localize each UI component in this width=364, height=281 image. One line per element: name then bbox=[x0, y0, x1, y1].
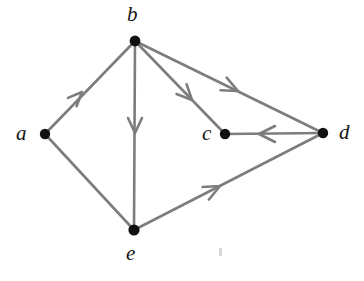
node-d[interactable] bbox=[318, 128, 328, 138]
node-c[interactable] bbox=[220, 129, 230, 139]
edge-b-c bbox=[135, 41, 225, 134]
edge-a-b-line bbox=[45, 41, 135, 134]
node-label-c: c bbox=[202, 123, 211, 144]
edge-a-e-line bbox=[45, 134, 134, 230]
edge-a-b-arrowhead bbox=[68, 88, 86, 106]
edge-e-d bbox=[134, 133, 323, 230]
node-label-a: a bbox=[16, 123, 27, 144]
edge-d-c-line bbox=[225, 133, 323, 134]
edge-a-b bbox=[45, 41, 135, 134]
edge-b-d bbox=[135, 41, 323, 133]
node-label-d: d bbox=[339, 122, 350, 143]
edge-b-d-line bbox=[135, 41, 323, 133]
directed-graph-figure: a b c d e bbox=[0, 0, 364, 281]
node-b[interactable] bbox=[130, 36, 141, 47]
node-a[interactable] bbox=[40, 129, 50, 139]
node-label-e: e bbox=[126, 243, 135, 264]
node-label-b: b bbox=[127, 4, 138, 25]
edge-a-e bbox=[45, 134, 134, 230]
edge-b-c-line bbox=[135, 41, 225, 134]
node-e[interactable] bbox=[128, 224, 139, 235]
graph-canvas bbox=[0, 0, 364, 281]
speck-artifact bbox=[219, 248, 222, 256]
edge-layer bbox=[45, 41, 323, 230]
edge-b-e bbox=[128, 41, 142, 230]
edge-b-e-line bbox=[134, 41, 135, 230]
edge-e-d-line bbox=[134, 133, 323, 230]
